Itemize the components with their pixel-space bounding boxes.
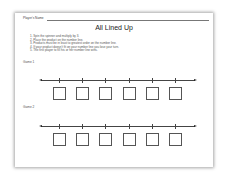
answer-box[interactable] bbox=[99, 133, 112, 146]
answer-box[interactable] bbox=[123, 87, 136, 100]
worksheet-page: Player's Name All Lined Up 1. Spin the s… bbox=[15, 13, 213, 167]
worksheet-title: All Lined Up bbox=[15, 24, 213, 31]
tick-mark bbox=[59, 124, 60, 129]
arrow-left-icon bbox=[39, 125, 42, 127]
instruction-item: 5. The first player to fill his or her n… bbox=[30, 49, 119, 53]
tick-mark bbox=[152, 78, 153, 83]
player-name-label: Player's Name bbox=[23, 16, 44, 20]
player-name-row: Player's Name bbox=[23, 16, 209, 22]
answer-box[interactable] bbox=[169, 133, 182, 146]
answer-box[interactable] bbox=[76, 133, 89, 146]
tick-mark bbox=[82, 78, 83, 83]
arrow-left-icon bbox=[39, 79, 42, 81]
tick-mark bbox=[175, 78, 176, 83]
answer-box[interactable] bbox=[146, 87, 159, 100]
tick-mark bbox=[175, 124, 176, 129]
answer-box[interactable] bbox=[99, 87, 112, 100]
game-1-label: Game 1 bbox=[23, 60, 34, 64]
arrow-right-icon bbox=[194, 79, 197, 81]
tick-mark bbox=[105, 78, 106, 83]
arrow-right-icon bbox=[194, 125, 197, 127]
tick-mark bbox=[152, 124, 153, 129]
answer-box[interactable] bbox=[146, 133, 159, 146]
game-1-number-line bbox=[39, 76, 197, 100]
game-2-label: Game 2 bbox=[23, 105, 34, 109]
answer-box[interactable] bbox=[53, 133, 66, 146]
answer-box[interactable] bbox=[123, 133, 136, 146]
number-line-axis bbox=[41, 80, 195, 81]
tick-mark bbox=[105, 124, 106, 129]
game-2-number-line bbox=[39, 122, 197, 146]
instructions-list: 1. Spin the spinner and multiply by 3. 2… bbox=[30, 35, 119, 53]
player-name-field[interactable] bbox=[47, 20, 209, 21]
tick-mark bbox=[59, 78, 60, 83]
answer-box[interactable] bbox=[169, 87, 182, 100]
tick-mark bbox=[82, 124, 83, 129]
tick-mark bbox=[129, 124, 130, 129]
number-line-axis bbox=[41, 126, 195, 127]
tick-mark bbox=[129, 78, 130, 83]
answer-box[interactable] bbox=[53, 87, 66, 100]
answer-box[interactable] bbox=[76, 87, 89, 100]
